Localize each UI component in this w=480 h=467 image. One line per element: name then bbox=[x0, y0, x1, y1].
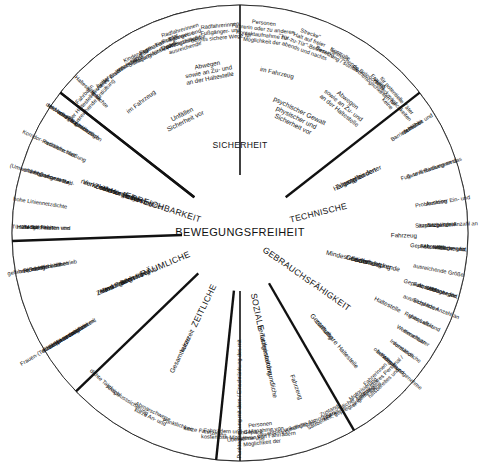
center-title: BEWEGUNGSFREIHEIT bbox=[175, 226, 305, 238]
divider-caption: Punktegrenzung mit dem / Einschränkung d… bbox=[236, 339, 242, 458]
svg-text:Fahrzeug: Fahrzeug bbox=[391, 231, 418, 238]
ring4-label-11: ausreichende Anzahl anSitzplätzen/Sitzpl… bbox=[415, 220, 478, 228]
bewegungsfreiheit-wheel: SICHERHEITTECHNISCHEGEBRAUCHSFÄHIGKEITSO… bbox=[0, 0, 480, 467]
svg-text:Strecke: Strecke bbox=[19, 224, 38, 230]
ring3-label-4: Fahrzeug bbox=[391, 231, 418, 238]
svg-text:SICHERHEIT: SICHERHEIT bbox=[212, 140, 267, 150]
ring1-label-sicherheit: SICHERHEIT bbox=[212, 140, 267, 150]
diagram-canvas: SICHERHEITTECHNISCHEGEBRAUCHSFÄHIGKEITSO… bbox=[0, 0, 480, 467]
